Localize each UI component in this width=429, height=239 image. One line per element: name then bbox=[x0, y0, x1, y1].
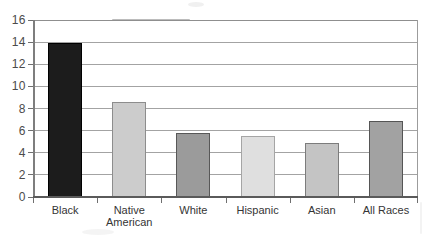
y-axis-label: 6 bbox=[2, 125, 26, 137]
gridline bbox=[33, 42, 418, 43]
bar-all-races bbox=[369, 121, 403, 197]
bar-hispanic bbox=[241, 136, 275, 197]
category-label-asian: Asian bbox=[290, 204, 354, 216]
x-axis-tick bbox=[226, 198, 227, 203]
scan-smudge bbox=[82, 229, 114, 235]
y-axis-label: 14 bbox=[2, 36, 26, 48]
gridline bbox=[33, 174, 418, 175]
bar-asian bbox=[305, 143, 339, 197]
y-axis-label: 10 bbox=[2, 80, 26, 92]
x-axis-tick bbox=[33, 198, 34, 203]
y-axis-label: 4 bbox=[2, 147, 26, 159]
category-label-hispanic: Hispanic bbox=[226, 204, 290, 216]
y-axis-label: 2 bbox=[2, 169, 26, 181]
y-axis-label: 8 bbox=[2, 103, 26, 115]
gridline bbox=[33, 64, 418, 65]
y-axis-label: 16 bbox=[2, 14, 26, 26]
bar-chart: 0246810121416BlackNative AmericanWhiteHi… bbox=[0, 0, 429, 239]
gridline bbox=[33, 152, 418, 153]
gridline bbox=[33, 86, 418, 87]
category-label-black: Black bbox=[33, 204, 97, 216]
gridline bbox=[33, 130, 418, 131]
bar-native-american bbox=[112, 102, 146, 197]
bar-white bbox=[176, 133, 210, 197]
x-axis-tick bbox=[417, 198, 418, 203]
x-axis-tick bbox=[290, 198, 291, 203]
category-label-white: White bbox=[161, 204, 225, 216]
gridline bbox=[33, 108, 418, 109]
x-axis-tick bbox=[97, 198, 98, 203]
plot-right-border bbox=[417, 20, 418, 197]
bar-black bbox=[48, 43, 82, 197]
category-label-all-races: All Races bbox=[354, 204, 418, 216]
y-axis-label: 0 bbox=[2, 191, 26, 203]
y-axis-label: 12 bbox=[2, 58, 26, 70]
x-axis-tick bbox=[354, 198, 355, 203]
y-axis-line bbox=[33, 20, 35, 198]
scan-smudge bbox=[188, 2, 204, 7]
category-label-native-american: Native American bbox=[97, 204, 161, 228]
scan-smudge bbox=[420, 202, 422, 234]
gridline bbox=[33, 20, 418, 21]
x-axis-tick bbox=[161, 198, 162, 203]
